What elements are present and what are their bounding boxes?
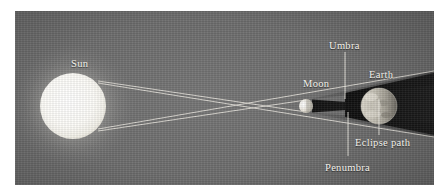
moon-body	[299, 99, 313, 113]
eclipse-diagram-panel: Sun Moon Earth Umbra Penumbra Eclipse pa…	[15, 11, 434, 185]
diagram-artwork	[15, 11, 434, 185]
figure-root: Sun Moon Earth Umbra Penumbra Eclipse pa…	[0, 0, 447, 194]
sun-body	[40, 73, 106, 139]
